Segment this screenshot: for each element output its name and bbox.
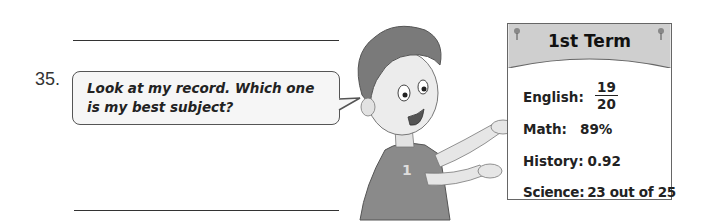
answer-line-bottom (74, 210, 339, 211)
svg-text:1: 1 (402, 162, 412, 178)
boy-illustration-icon: 1 (340, 15, 510, 224)
subject-label: History: (523, 153, 584, 169)
card-title: 1st Term (508, 31, 671, 51)
record-card: 1st Term English: 19 20 Math:89% History… (507, 23, 672, 200)
subject-label: Math: (523, 121, 580, 137)
record-row-history: History:0.92 (523, 153, 621, 169)
subject-score: 89% (580, 121, 612, 137)
fraction-denominator: 20 (595, 96, 618, 112)
question-number: 35. (35, 69, 60, 90)
subject-score: 23 out of 25 (587, 184, 676, 200)
speech-bubble: Look at my record. Which one is my best … (72, 71, 340, 125)
answer-line-top (73, 40, 339, 41)
score-fraction: 19 20 (595, 79, 618, 112)
subject-label: English: (523, 89, 584, 105)
record-row-math: Math:89% (523, 121, 612, 137)
subject-label: Science: (523, 184, 584, 200)
fraction-numerator: 19 (595, 79, 618, 96)
record-row-english: English: 19 20 (523, 89, 584, 105)
record-row-science: Science:23 out of 25 (523, 184, 676, 200)
subject-score: 0.92 (588, 153, 621, 169)
